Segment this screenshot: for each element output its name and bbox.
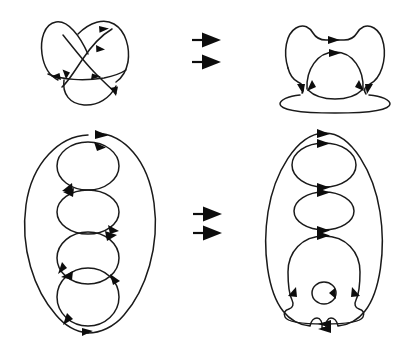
trefoil-knot-diagram xyxy=(42,21,129,105)
seifert-top-arrowhead-foot-right xyxy=(365,84,373,94)
trefoil-arrowhead-upper-right xyxy=(96,45,105,52)
arrow-head xyxy=(202,33,221,48)
arrow-head xyxy=(203,207,222,222)
double-right-arrow-top-2 xyxy=(192,55,221,70)
double-right-arrow-bottom-1 xyxy=(193,207,222,222)
knot-diagram-figure xyxy=(0,0,413,353)
seifert-top-inner-base xyxy=(308,90,362,99)
transform-operator-top xyxy=(192,33,221,70)
seifert-bottom-oval-1 xyxy=(292,143,356,187)
double-right-arrow-top-1 xyxy=(192,33,221,48)
arrow-head xyxy=(203,226,222,241)
seifert-top-bottom-bowl xyxy=(280,95,390,113)
seifert-bottom-arrowhead-outer-bottom xyxy=(318,325,331,333)
seifert-circles-top xyxy=(280,26,390,113)
seifert-top-arrowhead-foot-left xyxy=(297,84,305,94)
chain-arrowhead-loop4-right xyxy=(110,274,120,285)
seifert-bottom-oval-2 xyxy=(294,192,354,230)
figure-root: Knot diagram resolution Trefoil knot dia… xyxy=(0,0,413,353)
trefoil-strand-diagonal-b xyxy=(63,35,116,93)
seifert-top-arrowhead-inner-left xyxy=(307,80,316,91)
seifert-bottom-arrowhead-outer-top xyxy=(317,129,330,138)
transform-operator-bottom xyxy=(193,207,222,241)
double-right-arrow-bottom-2 xyxy=(193,226,222,241)
seifert-bottom-arrowhead-small-circle xyxy=(329,288,336,299)
seifert-top-arrowhead-outer xyxy=(328,36,340,44)
chain-arrowhead-bottom xyxy=(82,328,93,336)
seifert-top-arrowhead-inner xyxy=(329,49,341,57)
seifert-circles-bottom xyxy=(266,129,383,333)
trefoil-strand-lower xyxy=(64,80,116,105)
seifert-bottom-arrowhead-oval1-top xyxy=(317,139,330,148)
chain-loop-1 xyxy=(57,142,119,190)
arrow-head xyxy=(202,55,221,70)
trefoil-arrowhead-lower-right xyxy=(110,87,118,97)
chain-arrowhead-loop4-bottom-left xyxy=(63,313,73,325)
seifert-bottom-big-shape xyxy=(284,236,364,324)
seifert-top-inner-dome xyxy=(307,52,363,89)
pretzel-knot-diagram xyxy=(25,130,156,336)
